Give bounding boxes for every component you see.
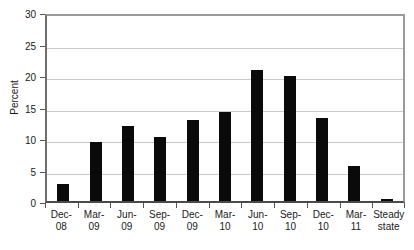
- x-tick-label: Dec-08: [45, 203, 78, 250]
- x-tick-label-line2: 09: [176, 221, 209, 233]
- bar-slot: [144, 16, 176, 201]
- x-tick-mark: [143, 203, 144, 208]
- y-tick-label: 20: [25, 72, 36, 83]
- x-tick-label-line2: 10: [209, 221, 242, 233]
- bar[interactable]: [219, 112, 231, 201]
- bar-slot: [209, 16, 241, 201]
- x-tick-label-line1: Dec-: [51, 209, 72, 220]
- y-tick-label: 5: [30, 166, 36, 177]
- x-tick-label-line1: Dec-: [313, 209, 334, 220]
- bar-slot: [241, 16, 273, 201]
- x-tick-label-line2: state: [372, 221, 405, 233]
- bar[interactable]: [251, 70, 263, 201]
- x-tick-label: Mar-09: [78, 203, 111, 250]
- x-tick-mark: [209, 203, 210, 208]
- x-tick-label-line1: Mar-: [215, 209, 236, 220]
- bar-series: [47, 16, 403, 201]
- x-tick-mark: [78, 203, 79, 208]
- x-tick-label-line2: 10: [307, 221, 340, 233]
- bar-slot: [47, 16, 79, 201]
- x-tick-label-line2: 09: [143, 221, 176, 233]
- bar[interactable]: [154, 137, 166, 201]
- bar-slot: [176, 16, 208, 201]
- bar[interactable]: [57, 184, 69, 201]
- x-tick-label-line1: Mar-: [84, 209, 105, 220]
- x-tick-label-line1: Jun-: [248, 209, 267, 220]
- bar[interactable]: [90, 142, 102, 201]
- y-tick-label: 30: [25, 9, 36, 20]
- bar[interactable]: [187, 120, 199, 201]
- plot-area: [45, 14, 405, 203]
- bar[interactable]: [381, 199, 393, 201]
- bar-slot: [338, 16, 370, 201]
- x-tick-mark: [404, 203, 405, 208]
- bar[interactable]: [316, 118, 328, 201]
- y-axis-title: Percent: [9, 63, 20, 133]
- x-tick-label-line1: Mar-: [346, 209, 367, 220]
- x-tick-label-line2: 10: [274, 221, 307, 233]
- bar-chart: Percent 051015202530 Dec-08Mar-09Jun-09S…: [0, 0, 414, 250]
- x-tick-label-line1: Sep-: [149, 209, 170, 220]
- x-tick-label-line2: 09: [110, 221, 143, 233]
- y-tick-label: 0: [30, 198, 36, 209]
- bar-slot: [79, 16, 111, 201]
- x-axis: Dec-08Mar-09Jun-09Sep-09Dec-09Mar-10Jun-…: [45, 203, 405, 250]
- bar[interactable]: [348, 166, 360, 201]
- x-tick-mark: [176, 203, 177, 208]
- x-tick-label-line1: Jun-: [117, 209, 136, 220]
- x-tick-mark: [45, 203, 46, 208]
- bar[interactable]: [284, 76, 296, 201]
- x-tick-label-line2: 08: [45, 221, 78, 233]
- x-tick-label: Sep-10: [274, 203, 307, 250]
- x-tick-label: Jun-10: [241, 203, 274, 250]
- x-tick-mark: [274, 203, 275, 208]
- bar-slot: [306, 16, 338, 201]
- bar-slot: [274, 16, 306, 201]
- x-tick-mark: [340, 203, 341, 208]
- x-tick-label-line1: Sep-: [280, 209, 301, 220]
- x-tick-label-line2: 09: [78, 221, 111, 233]
- x-tick-label: Steadystate: [372, 203, 405, 250]
- y-tick-label: 25: [25, 40, 36, 51]
- x-tick-mark: [307, 203, 308, 208]
- bar-slot: [112, 16, 144, 201]
- x-tick-label: Dec-09: [176, 203, 209, 250]
- x-tick-label-line1: Steady: [373, 209, 404, 220]
- x-tick-mark: [110, 203, 111, 208]
- y-axis: Percent 051015202530: [0, 0, 45, 217]
- x-tick-label-line1: Dec-: [182, 209, 203, 220]
- x-tick-label: Mar-11: [340, 203, 373, 250]
- y-tick-label: 10: [25, 135, 36, 146]
- x-tick-label: Jun-09: [110, 203, 143, 250]
- x-tick-label: Dec-10: [307, 203, 340, 250]
- bar-slot: [371, 16, 403, 201]
- x-tick-label-line2: 11: [340, 221, 373, 233]
- x-tick-mark: [241, 203, 242, 208]
- bar[interactable]: [122, 126, 134, 201]
- x-tick-mark: [372, 203, 373, 208]
- x-tick-label-line2: 10: [241, 221, 274, 233]
- y-tick-label: 15: [25, 103, 36, 114]
- x-tick-label: Mar-10: [209, 203, 242, 250]
- x-tick-label: Sep-09: [143, 203, 176, 250]
